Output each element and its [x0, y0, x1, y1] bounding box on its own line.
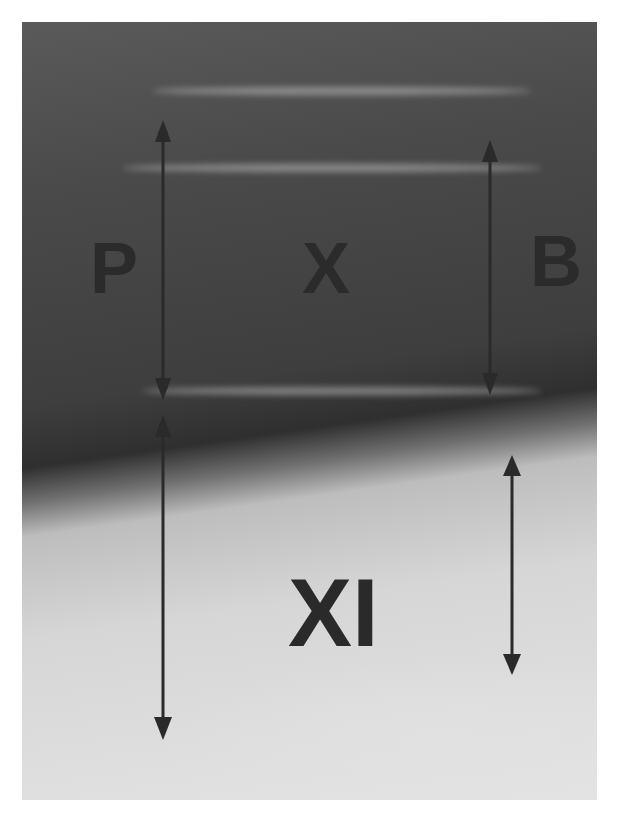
measurement-arrows: [0, 0, 617, 818]
